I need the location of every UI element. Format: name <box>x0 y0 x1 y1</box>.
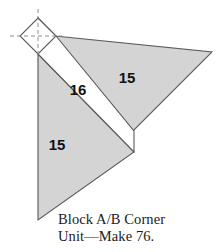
piece-label-15-upper-right: 15 <box>119 69 136 86</box>
piece-label-16: 16 <box>70 81 87 98</box>
caption-line-1: Block A/B Corner <box>58 211 218 228</box>
figure-caption: Block A/B Corner Unit—Make 76. <box>58 211 218 245</box>
caption-line-2: Unit—Make 76. <box>58 228 218 245</box>
piece-label-15-lower-left: 15 <box>49 136 66 153</box>
quilting-block-diagram: 16 15 15 Block A/B Corner Unit—Make 76. <box>0 0 224 252</box>
